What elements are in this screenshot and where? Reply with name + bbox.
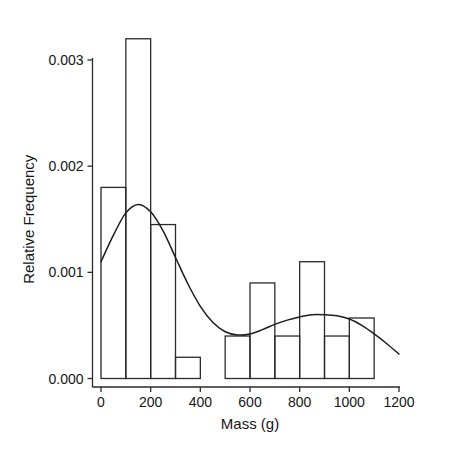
y-axis-title: Relative Frequency bbox=[20, 154, 37, 284]
x-tick-label: 1200 bbox=[383, 394, 414, 410]
y-tick-label: 0.003 bbox=[48, 52, 83, 68]
y-tick-label: 0.000 bbox=[48, 371, 83, 387]
y-tick-label: 0.002 bbox=[48, 158, 83, 174]
x-tick-label: 1000 bbox=[334, 394, 365, 410]
histogram-figure: 020040060080010001200Mass (g)0.0000.0010… bbox=[0, 0, 465, 458]
y-tick-label: 0.001 bbox=[48, 264, 83, 280]
x-axis-title: Mass (g) bbox=[221, 415, 279, 432]
x-tick-label: 800 bbox=[288, 394, 312, 410]
x-tick-label: 400 bbox=[189, 394, 213, 410]
chart-background bbox=[0, 0, 465, 458]
x-tick-label: 0 bbox=[97, 394, 105, 410]
x-tick-label: 200 bbox=[139, 394, 163, 410]
x-tick-label: 600 bbox=[238, 394, 262, 410]
